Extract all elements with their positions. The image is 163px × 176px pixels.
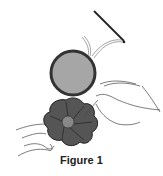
gathered-fabric-icon [44, 98, 98, 146]
needle-icon [94, 11, 125, 43]
fabric-circle-icon [51, 51, 95, 95]
figure-caption: Figure 1 [0, 154, 163, 166]
thread-icon [82, 36, 123, 58]
sewing-illustration [0, 0, 163, 176]
hand-icon [96, 81, 160, 125]
